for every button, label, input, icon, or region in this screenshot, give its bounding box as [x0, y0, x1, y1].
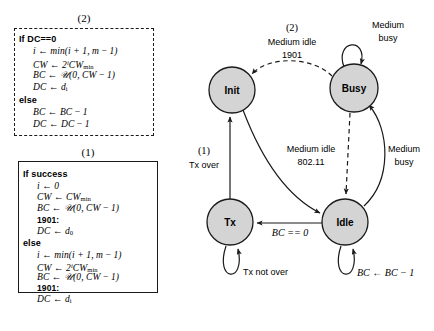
panel-2-line-5: else	[19, 95, 37, 105]
panel-1-line-9: BC ← 𝒰(0, CW − 1)	[37, 272, 119, 282]
edge-label-busy-self-line2: busy	[378, 33, 397, 44]
panel-2-line-0: If DC==0	[19, 34, 56, 44]
state-label-idle: Idle	[336, 217, 353, 228]
edge-label-busy-to-idle-line2: 802.11	[298, 157, 325, 168]
edge-label-idle-to-busy-line1: Medium	[388, 144, 420, 155]
panel-2-line-4: DC ← di	[33, 82, 68, 94]
edge-label-idle-to-busy-line2: busy	[394, 157, 413, 168]
edge-label-busy-to-init-line2: 1901	[282, 50, 302, 61]
panel-1-line-6: else	[23, 238, 41, 248]
edge-index-busy-to-init: (2)	[286, 22, 298, 33]
state-label-busy: Busy	[342, 83, 366, 94]
panel-1-line-3: BC ← 𝒰(0, CW − 1)	[37, 203, 119, 213]
edge-idle-self	[338, 246, 354, 274]
panel-1-line-10: 1901:	[37, 283, 59, 293]
edge-tx-self	[223, 246, 239, 274]
edge-label-busy-to-idle-line1: Medium idle	[287, 144, 336, 155]
edge-index-tx-to-init: (1)	[198, 145, 210, 156]
panel-1-label: (1)	[18, 146, 158, 158]
panel-1-box: If success i ← 0 CW ← CWmin BC ← 𝒰(0, CW…	[18, 161, 158, 293]
panel-1-line-4: 1901:	[37, 215, 59, 225]
edge-label-idle-self: BC ← BC − 1	[357, 267, 414, 278]
state-label-tx: Tx	[224, 217, 236, 228]
panel-2-label: (2)	[14, 12, 154, 24]
panel-1-line-5: DC ← d0	[37, 226, 73, 238]
panel-1-line-7: i ← min(i + 1, m − 1)	[37, 250, 122, 260]
edge-idle-to-busy	[364, 105, 385, 206]
edge-busy-to-init	[252, 61, 332, 76]
panel-2-line-1: i ← min(i + 1, m − 1)	[33, 46, 118, 56]
edge-label-tx-self: Tx not over	[243, 267, 288, 278]
panel-2-box: If DC==0 i ← min(i + 1, m − 1) CW ← 2iCW…	[14, 28, 154, 136]
edge-label-busy-self-line1: Medium	[372, 20, 404, 31]
panel-2-line-6: BC ← BC − 1	[33, 107, 88, 117]
panel-1-line-0: If success	[23, 169, 68, 179]
panel-2-line-3: BC ← 𝒰(0, CW − 1)	[33, 70, 115, 80]
panel-1-line-1: i ← 0	[37, 181, 59, 191]
panel-2-line-7: DC ← DC − 1	[33, 119, 90, 129]
edge-label-idle-to-tx: BC == 0	[272, 227, 308, 238]
edge-busy-to-idle	[346, 113, 350, 194]
state-label-init: Init	[225, 85, 240, 96]
panel-1-line-11: DC ← di	[37, 294, 72, 306]
edge-label-busy-to-init-line1: Medium idle	[268, 37, 317, 48]
edge-label-tx-to-init: Tx over	[189, 160, 219, 171]
